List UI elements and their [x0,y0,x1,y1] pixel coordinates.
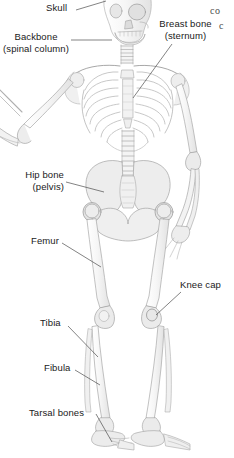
label-tarsal-bones: Tarsal bones [29,407,84,419]
cervical-spine [121,45,133,64]
label-hip-bone: Hip bone (pelvis) [10,169,64,193]
left-arm-bones [0,79,73,146]
label-femur: Femur [31,235,59,247]
skeleton-diagram-page: Skull Backbone (spinal column) Breast bo… [0,0,234,458]
sternum-bone [121,70,134,128]
label-fibula: Fibula [44,362,70,374]
label-fibula-line1: Fibula [44,362,70,373]
cropped-text-c: c [219,20,224,31]
label-knee-cap: Knee cap [180,279,221,291]
label-tibia-line1: Tibia [40,317,61,328]
label-tarsal-bones-line1: Tarsal bones [29,407,84,418]
label-backbone-line1: Backbone [14,31,57,42]
label-skull: Skull [46,2,67,14]
label-backbone: Backbone (spinal column) [2,31,70,55]
skull-bone [104,0,151,45]
label-tibia: Tibia [40,317,61,329]
spinal-column [122,130,134,176]
label-breast-bone-line2: (sternum) [157,30,214,42]
skeleton-illustration [0,0,234,458]
label-hip-bone-line2: (pelvis) [10,181,64,193]
label-knee-cap-line1: Knee cap [180,279,221,290]
label-breast-bone-line1: Breast bone [159,18,211,29]
label-skull-line1: Skull [46,2,67,13]
cropped-text-co: co [210,5,220,16]
knee-cap-patella [147,309,158,321]
label-femur-line1: Femur [31,235,59,246]
label-breast-bone: Breast bone (sternum) [157,18,214,42]
right-arm-bones [163,84,201,259]
label-backbone-line2: (spinal column) [2,43,70,55]
label-hip-bone-line1: Hip bone [25,169,64,180]
